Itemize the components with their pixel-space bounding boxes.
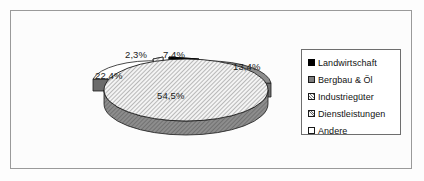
legend-swatch-icon	[308, 93, 315, 100]
legend-label: Andere	[318, 126, 347, 136]
chart-screenshot: 22,4% 2,3% 7,4% 13,4% 54,5% Landwirtscha…	[0, 0, 424, 181]
data-label-bergbau-oel: 13,4%	[233, 61, 260, 72]
legend-swatch-icon	[308, 127, 315, 134]
chart-legend: Landwirtschaft Bergbau & Öl Industriegüt…	[301, 49, 401, 135]
legend-item-bergbau-oel[interactable]: Bergbau & Öl	[308, 72, 400, 87]
data-label-landwirtschaft: 7,4%	[163, 49, 185, 60]
legend-item-andere[interactable]: Andere	[308, 123, 400, 138]
legend-swatch-icon	[308, 110, 315, 117]
legend-swatch-icon	[308, 59, 315, 66]
legend-swatch-icon	[308, 76, 315, 83]
legend-label: Dienstleistungen	[318, 109, 385, 119]
chart-frame: 22,4% 2,3% 7,4% 13,4% 54,5% Landwirtscha…	[10, 10, 412, 169]
data-label-andere: 22,4%	[95, 70, 122, 81]
data-label-industrieguter: 2,3%	[125, 49, 147, 60]
legend-label: Bergbau & Öl	[318, 75, 373, 85]
legend-label: Industriegüter	[318, 92, 374, 102]
plot-area: 22,4% 2,3% 7,4% 13,4% 54,5% Landwirtscha…	[11, 11, 411, 168]
legend-item-industrieguter[interactable]: Industriegüter	[308, 89, 400, 104]
legend-item-dienstleistungen[interactable]: Dienstleistungen	[308, 106, 400, 121]
legend-label: Landwirtschaft	[318, 58, 377, 68]
data-label-dienstleistungen: 54,5%	[157, 90, 184, 101]
legend-item-landwirtschaft[interactable]: Landwirtschaft	[308, 55, 400, 70]
